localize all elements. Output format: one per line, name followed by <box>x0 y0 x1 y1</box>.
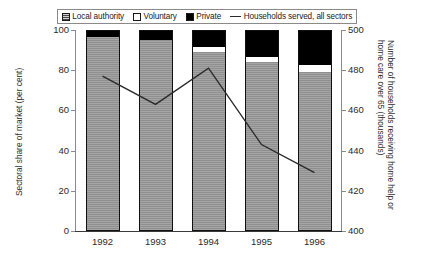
line-segment-icon <box>230 16 241 17</box>
x-axis-label-1992: 1992 <box>81 237 125 247</box>
axis-tick <box>342 151 346 152</box>
black-square-icon <box>186 13 194 21</box>
axis-tick <box>342 30 346 31</box>
axis-tick <box>342 70 346 71</box>
axis-tick <box>342 110 346 111</box>
chart-legend: Local authority Voluntary Private Househ… <box>57 9 357 24</box>
axis-tick-label: 40 <box>58 146 69 156</box>
axis-tick <box>71 191 75 192</box>
axis-tick-label: 400 <box>348 226 364 236</box>
axis-tick-label: 20 <box>58 186 69 196</box>
y-axis-right-line <box>341 30 342 231</box>
legend-label-voluntary: Voluntary <box>144 12 177 21</box>
legend-item-private: Private <box>186 12 221 21</box>
axis-tick-label: 480 <box>348 65 364 75</box>
legend-item-voluntary: Voluntary <box>133 12 177 21</box>
axis-tick <box>71 30 75 31</box>
axis-tick <box>342 231 346 232</box>
axis-tick <box>71 151 75 152</box>
legend-label-households-served: Households served, all sectors <box>244 12 353 21</box>
hatched-gray-square-icon <box>62 13 70 21</box>
y-axis-right-title: Number of households receiving home help… <box>375 40 396 230</box>
legend-label-local-authority: Local authority <box>72 12 124 21</box>
axis-tick-label: 60 <box>58 105 69 115</box>
axis-tick <box>71 110 75 111</box>
plot-area: 020406080100 400420440460480500 19921993… <box>76 30 341 231</box>
y-axis-left-title: Sectoral share of market (per cent) <box>14 68 24 196</box>
households-served-line <box>76 30 341 231</box>
x-axis-label-1995: 1995 <box>240 237 284 247</box>
axis-tick <box>342 191 346 192</box>
white-square-icon <box>133 13 141 21</box>
legend-label-private: Private <box>196 12 221 21</box>
axis-tick-label: 0 <box>64 226 69 236</box>
axis-tick <box>71 231 75 232</box>
chart-figure: Local authority Voluntary Private Househ… <box>0 0 425 262</box>
x-axis-line <box>75 231 342 232</box>
axis-tick-label: 460 <box>348 105 364 115</box>
axis-tick-label: 80 <box>58 65 69 75</box>
axis-tick-label: 100 <box>53 25 69 35</box>
x-axis-label-1994: 1994 <box>187 237 231 247</box>
axis-tick-label: 420 <box>348 186 364 196</box>
x-axis-label-1993: 1993 <box>134 237 178 247</box>
x-axis-label-1996: 1996 <box>293 237 337 247</box>
axis-tick-label: 500 <box>348 25 364 35</box>
axis-tick <box>71 70 75 71</box>
axis-tick-label: 440 <box>348 146 364 156</box>
legend-item-local-authority: Local authority <box>62 12 124 21</box>
legend-item-households-served: Households served, all sectors <box>230 12 352 21</box>
